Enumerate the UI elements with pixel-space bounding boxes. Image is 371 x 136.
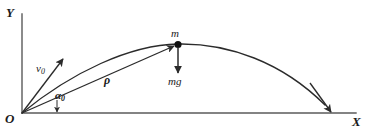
initial-velocity-label: v0 bbox=[36, 63, 45, 76]
origin-label: O bbox=[5, 112, 14, 125]
mass-label: m bbox=[171, 28, 179, 39]
launch-angle-label: α0 bbox=[55, 90, 65, 103]
x-axis-label: X bbox=[352, 115, 361, 128]
position-vector-label: ρ bbox=[104, 74, 110, 86]
projectile-motion-figure: Y X O m mg v0 ρ α0 bbox=[0, 0, 371, 136]
position-vector-arrow bbox=[22, 46, 174, 113]
figure-canvas bbox=[0, 0, 371, 136]
launch-angle-subscript: 0 bbox=[61, 94, 65, 103]
initial-velocity-subscript: 0 bbox=[41, 67, 45, 76]
weight-force-label: mg bbox=[168, 76, 181, 87]
y-axis-label: Y bbox=[6, 6, 14, 19]
trajectory-end-arrow-icon bbox=[310, 83, 331, 112]
